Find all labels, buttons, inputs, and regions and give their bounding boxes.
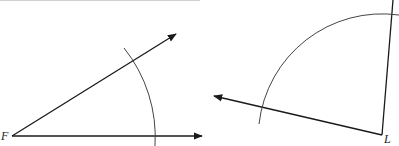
compass-construction-diagram: F L <box>0 0 399 146</box>
vertex-label-f: F <box>0 129 9 143</box>
ray-f-upper <box>12 34 176 136</box>
ray-l-up <box>382 0 393 135</box>
angle-f: F <box>0 34 202 146</box>
vertex-label-l: L <box>383 132 391 146</box>
arc-l <box>259 14 399 124</box>
angle-l: L <box>214 0 399 146</box>
diagram-svg: F L <box>0 0 399 146</box>
ray-l-left <box>214 96 382 135</box>
